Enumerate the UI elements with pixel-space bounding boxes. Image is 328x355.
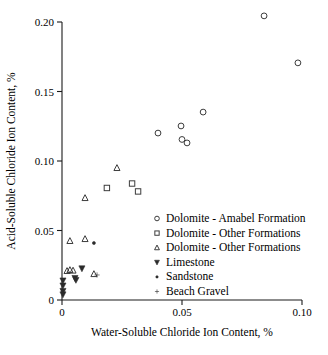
legend-item-label: Beach Gravel (166, 285, 229, 297)
legend-item: Dolomite - Amabel Formation (155, 212, 306, 224)
marker-triangle-down-filled (79, 266, 85, 272)
legend-item-label: Dolomite - Other Formations (166, 227, 301, 239)
marker-triangle-up-open (67, 238, 73, 244)
y-tick-label: 0.20 (35, 16, 55, 28)
y-tick-label: 0.05 (35, 225, 55, 237)
x-tick-label: 0.10 (292, 306, 312, 318)
legend-item-label: Dolomite - Other Formations (166, 241, 301, 253)
legend-item: Limestone (155, 256, 215, 268)
marker-dot-filled (92, 242, 95, 245)
marker-triangle-up-open (82, 195, 88, 201)
marker-circle-open (184, 140, 190, 146)
marker-circle-open (295, 60, 301, 66)
x-tick-label: 0 (59, 306, 65, 318)
marker-triangle-up-open (114, 165, 120, 171)
series-group (155, 13, 301, 146)
axis-titles: Water-Soluble Chloride Ion Content, %Aci… (5, 72, 273, 339)
marker-square-open (104, 185, 109, 190)
marker-square-open (135, 189, 140, 194)
legend-item: Sandstone (156, 270, 213, 282)
marker-square-open (155, 231, 159, 235)
marker-plus-filled (155, 289, 159, 293)
series-group (92, 242, 95, 245)
legend-item: Dolomite - Other Formations (155, 241, 301, 253)
marker-triangle-down-filled (155, 260, 160, 265)
marker-circle-open (155, 130, 161, 136)
marker-triangle-up-open (91, 271, 97, 277)
marker-triangle-up-open (155, 245, 160, 250)
marker-circle-open (200, 109, 206, 115)
x-tick-label: 0.05 (172, 306, 192, 318)
y-tick-label: 0.15 (35, 86, 55, 98)
legend-item: Dolomite - Other Formations (155, 227, 301, 239)
marker-circle-open (261, 13, 267, 19)
marker-triangle-up-open (82, 236, 88, 242)
x-axis-title: Water-Soluble Chloride Ion Content, % (91, 326, 273, 339)
y-axis-title: Acid-Soluble Chloride Ion Content, % (5, 72, 18, 250)
legend-item-label: Dolomite - Amabel Formation (166, 212, 306, 224)
marker-circle-open (155, 216, 160, 221)
series-group (64, 165, 120, 277)
marker-square-open (129, 181, 134, 186)
chart-canvas: 00.050.100.150.2000.050.10 Dolomite - Am… (0, 0, 328, 355)
scatter-chart-figure: 00.050.100.150.2000.050.10 Dolomite - Am… (0, 0, 328, 355)
series-group (104, 181, 141, 194)
marker-triangle-down-filled (60, 292, 66, 298)
marker-dot-filled (156, 276, 158, 278)
marker-triangle-down-filled (60, 283, 66, 289)
legend-item: Beach Gravel (155, 285, 229, 297)
marker-triangle-down-filled (73, 277, 79, 283)
marker-circle-open (178, 123, 184, 129)
legend: Dolomite - Amabel FormationDolomite - Ot… (155, 212, 306, 297)
y-tick-label: 0.10 (35, 155, 55, 167)
legend-item-label: Sandstone (166, 270, 213, 282)
legend-item-label: Limestone (166, 256, 215, 268)
y-tick-label: 0 (49, 294, 55, 306)
